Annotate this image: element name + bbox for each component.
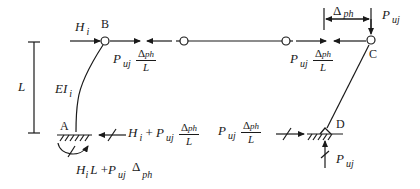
height-dimension-line bbox=[28, 42, 40, 133]
stiffness-sub: i bbox=[69, 88, 72, 99]
base-moment-p: P bbox=[108, 162, 116, 177]
base-shear-d-ph: ph bbox=[250, 121, 259, 131]
frame-diagram: B C A D L EIi Hi Puj Δph Puj Δph L Puj Δ… bbox=[0, 0, 420, 189]
pdelta-b-l: L bbox=[143, 61, 149, 73]
base-shear-a-ph: ph bbox=[188, 123, 197, 133]
base-moment-slash-a bbox=[68, 146, 75, 157]
pdelta-b-delta: Δ bbox=[138, 47, 145, 59]
lateral-load-main: H bbox=[75, 19, 84, 34]
axial-reaction-d-label: Puj bbox=[336, 152, 354, 165]
pdelta-c-ph: ph bbox=[322, 49, 331, 59]
lateral-load-label: Hi bbox=[75, 20, 89, 33]
pdelta-shear-c-label: Puj Δph L bbox=[290, 48, 333, 73]
base-moment-hsub: i bbox=[85, 169, 88, 180]
pdelta-b-ph: ph bbox=[145, 49, 154, 59]
base-moment-a-label: HiL +Puj Δph bbox=[76, 163, 152, 176]
stiffness-label: EIi bbox=[55, 82, 72, 95]
base-shear-a-h: H bbox=[128, 125, 137, 140]
left-column bbox=[76, 45, 103, 132]
base-shear-a-fraction: Δph L bbox=[179, 122, 199, 147]
drift-sub: ph bbox=[343, 8, 353, 19]
drift-main: Δ bbox=[333, 3, 341, 18]
hinge-beam-left bbox=[180, 37, 188, 45]
base-shear-d-psub: uj bbox=[228, 130, 236, 141]
base-shear-d-fraction: Δph L bbox=[241, 120, 261, 145]
axial-bottom-sub: uj bbox=[346, 158, 354, 169]
base-shear-a-plus: + bbox=[145, 125, 152, 140]
axial-bottom-main: P bbox=[336, 151, 344, 166]
base-moment-plus: + bbox=[101, 162, 108, 177]
pdelta-c-psub: uj bbox=[300, 58, 308, 69]
axial-load-top-label: Puj bbox=[382, 8, 400, 21]
base-shear-d-delta: Δ bbox=[243, 119, 250, 131]
base-shear-d-p: P bbox=[218, 123, 226, 138]
pdelta-c-fraction: Δph L bbox=[313, 48, 333, 73]
base-shear-a-p: P bbox=[156, 125, 164, 140]
node-label-a: A bbox=[60, 120, 69, 132]
pdelta-c-delta: Δ bbox=[315, 47, 322, 59]
hinge-beam-right bbox=[282, 37, 290, 45]
base-moment-delta: Δ bbox=[132, 159, 140, 174]
right-column bbox=[327, 45, 369, 128]
pdelta-c-l: L bbox=[320, 61, 326, 73]
hinge-c bbox=[367, 36, 375, 44]
base-moment-psub: uj bbox=[118, 169, 126, 180]
height-label: L bbox=[18, 80, 25, 93]
base-shear-a-hsub: i bbox=[139, 132, 142, 143]
lateral-load-sub: i bbox=[86, 26, 89, 37]
base-shear-a-psub: uj bbox=[166, 132, 174, 143]
base-moment-h: H bbox=[76, 162, 85, 177]
pdelta-shear-b-label: Puj Δph L bbox=[113, 48, 156, 73]
base-shear-a-label: Hi + Puj Δph L bbox=[128, 122, 199, 147]
node-label-c: C bbox=[369, 48, 377, 60]
base-shear-d-l: L bbox=[248, 133, 254, 145]
base-moment-dsub: ph bbox=[142, 169, 152, 180]
hinge-b bbox=[101, 37, 109, 45]
axial-top-main: P bbox=[382, 7, 390, 22]
stiffness-main: EI bbox=[55, 81, 67, 96]
support-a bbox=[57, 135, 92, 141]
drift-label: Δph bbox=[333, 4, 353, 17]
base-moment-l: L bbox=[90, 162, 97, 177]
base-shear-a-l: L bbox=[186, 135, 192, 147]
node-label-b: B bbox=[101, 18, 109, 30]
axial-top-sub: uj bbox=[392, 14, 400, 25]
node-label-d: D bbox=[336, 118, 345, 130]
pdelta-b-psub: uj bbox=[123, 58, 131, 69]
base-shear-d-label: Puj Δph L bbox=[218, 120, 261, 145]
pdelta-b-fraction: Δph L bbox=[136, 48, 156, 73]
pdelta-c-p: P bbox=[290, 51, 298, 66]
pdelta-b-p: P bbox=[113, 51, 121, 66]
